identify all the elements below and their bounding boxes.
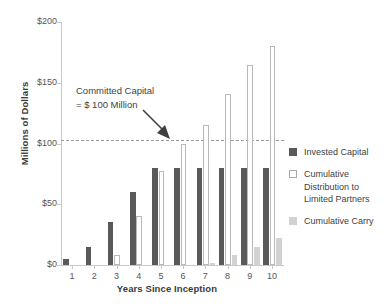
x-axis-title: Years Since Inception [52, 283, 282, 294]
x-axis-tick-mark [117, 265, 118, 269]
plot-area [61, 22, 283, 265]
bar-invested-capital-year-2 [86, 247, 92, 265]
legend-swatch-cumulative-carry [289, 217, 297, 225]
bar-group-year-10 [261, 22, 283, 265]
y-axis-tick-mark [56, 265, 61, 266]
bar-cumulative-distribution-year-4 [136, 216, 142, 265]
bar-group-year-2 [83, 22, 105, 265]
bar-group-year-9 [239, 22, 261, 265]
legend-item-invested-capital: Invested Capital [289, 146, 389, 159]
bar-invested-capital-year-4 [130, 192, 136, 265]
bar-cumulative-distribution-year-3 [114, 255, 120, 265]
x-axis-tick-label-7: 7 [193, 272, 217, 281]
legend-item-cumulative-carry: Cumulative Carry [289, 215, 389, 228]
bar-cumulative-distribution-year-5 [159, 171, 165, 265]
x-axis-tick-mark [205, 265, 206, 269]
x-axis-tick-label-5: 5 [149, 272, 173, 281]
y-axis-tick-label: $0 [17, 260, 57, 269]
bar-group-year-1 [61, 22, 83, 265]
bar-invested-capital-year-6 [174, 168, 180, 265]
bar-cumulative-carry-year-8 [232, 255, 238, 265]
x-axis-tick-label-9: 9 [238, 272, 262, 281]
x-axis-tick-mark [161, 265, 162, 269]
bar-group-year-6 [172, 22, 194, 265]
x-axis-tick-mark [272, 265, 273, 269]
y-axis-tick-label: $50 [17, 199, 57, 208]
bar-group-year-7 [194, 22, 216, 265]
bar-cumulative-distribution-year-8 [225, 94, 231, 265]
bar-group-year-8 [216, 22, 238, 265]
legend-swatch-cumulative-distribution [289, 170, 297, 178]
bar-invested-capital-year-9 [241, 168, 247, 265]
y-axis-tick-label: $150 [17, 78, 57, 87]
bar-cumulative-carry-year-7 [210, 263, 216, 265]
bar-cumulative-distribution-year-7 [203, 125, 209, 265]
legend-swatch-invested-capital [289, 148, 297, 156]
bar-cumulative-distribution-year-6 [181, 144, 187, 266]
x-axis-tick-mark [139, 265, 140, 269]
legend-item-cumulative-distribution: Cumulative Distribution to Limited Partn… [289, 168, 389, 206]
bar-group-year-3 [105, 22, 127, 265]
bar-cumulative-carry-year-9 [254, 247, 260, 265]
chart-container: Millions of Dollars Years Since Inceptio… [0, 0, 390, 306]
bar-invested-capital-year-10 [263, 168, 269, 265]
legend-label-cumulative-carry: Cumulative Carry [304, 215, 374, 228]
bar-invested-capital-year-8 [219, 168, 225, 265]
bar-cumulative-distribution-year-10 [270, 46, 276, 265]
x-axis-tick-mark [72, 265, 73, 269]
x-axis-tick-label-2: 2 [82, 272, 106, 281]
bar-invested-capital-year-1 [63, 259, 69, 265]
x-axis-tick-label-10: 10 [260, 272, 284, 281]
legend-label-cumulative-distribution: Cumulative Distribution to Limited Partn… [304, 168, 389, 206]
x-axis-tick-label-8: 8 [216, 272, 240, 281]
x-axis-tick-label-6: 6 [171, 272, 195, 281]
bar-invested-capital-year-3 [108, 222, 114, 265]
bar-cumulative-distribution-year-9 [247, 65, 253, 265]
y-axis-tick-label: $100 [17, 139, 57, 148]
bar-group-year-4 [128, 22, 150, 265]
y-axis-tick-label: $200 [17, 17, 57, 26]
x-axis-tick-label-4: 4 [127, 272, 151, 281]
x-axis-tick-mark [228, 265, 229, 269]
x-axis-tick-label-3: 3 [105, 272, 129, 281]
legend-label-invested-capital: Invested Capital [304, 146, 369, 159]
bar-cumulative-carry-year-10 [276, 238, 282, 265]
bar-invested-capital-year-7 [197, 168, 203, 265]
x-axis-tick-mark [183, 265, 184, 269]
bar-invested-capital-year-5 [152, 168, 158, 265]
x-axis-tick-mark [250, 265, 251, 269]
chart-legend: Invested Capital Cumulative Distribution… [289, 146, 389, 237]
x-axis-tick-mark [94, 265, 95, 269]
bar-group-year-5 [150, 22, 172, 265]
x-axis-tick-label-1: 1 [60, 272, 84, 281]
